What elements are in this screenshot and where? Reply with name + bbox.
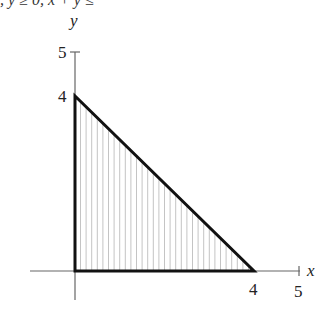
x-tick-label-5: 5	[294, 283, 303, 300]
y-axis-label: y	[70, 12, 78, 29]
region-plot	[0, 0, 328, 328]
x-axis-label: x	[307, 262, 315, 279]
x-tick-label-4: 4	[249, 281, 258, 298]
y-tick-label-5: 5	[58, 44, 67, 61]
y-tick-label-4: 4	[58, 88, 67, 105]
